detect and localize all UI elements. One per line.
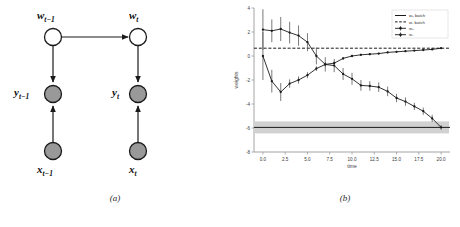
x-tick-label: 17.5 bbox=[414, 157, 423, 162]
data-point bbox=[271, 30, 273, 32]
data-point bbox=[404, 50, 406, 52]
weights-vs-time-chart: 420-2-4-6-80.02.55.07.510.012.515.017.52… bbox=[230, 0, 460, 190]
data-point bbox=[271, 80, 273, 82]
node-x-prev bbox=[45, 143, 62, 160]
data-point bbox=[378, 52, 380, 54]
data-point bbox=[280, 91, 282, 93]
node-label-y-prev: yt−1 bbox=[14, 86, 29, 101]
data-point bbox=[288, 31, 290, 33]
y-tick-label: -6 bbox=[246, 126, 251, 131]
y-axis-label: weights bbox=[233, 71, 239, 88]
data-point bbox=[360, 54, 362, 56]
node-label-y-t: yt bbox=[112, 86, 119, 101]
data-point bbox=[306, 41, 308, 43]
data-point bbox=[386, 90, 388, 92]
node-w-t bbox=[130, 29, 147, 46]
data-point bbox=[280, 28, 282, 30]
data-point bbox=[422, 49, 424, 51]
y-tick-label: 4 bbox=[247, 6, 250, 11]
data-point bbox=[351, 78, 353, 80]
y-tick-label: -4 bbox=[246, 102, 251, 107]
x-tick-label: 2.5 bbox=[282, 157, 289, 162]
x-tick-label: 5.0 bbox=[304, 157, 311, 162]
data-point bbox=[262, 55, 264, 57]
data-point bbox=[431, 48, 433, 50]
data-point bbox=[351, 55, 353, 57]
legend-label: w₀ bbox=[409, 26, 414, 31]
legend-label: w₁ batch bbox=[409, 20, 426, 25]
data-point bbox=[413, 49, 415, 51]
data-point bbox=[369, 85, 371, 87]
data-point bbox=[431, 117, 433, 119]
series-w1 bbox=[262, 32, 442, 101]
node-w-prev bbox=[45, 29, 62, 46]
y-tick-label: -2 bbox=[246, 78, 251, 83]
data-point bbox=[395, 97, 397, 99]
x-tick-label: 0.0 bbox=[260, 157, 267, 162]
x-axis-label: time bbox=[347, 163, 357, 169]
data-point bbox=[440, 126, 442, 128]
x-tick-label: 12.5 bbox=[370, 157, 379, 162]
data-point bbox=[413, 105, 415, 107]
legend-label: w₁ bbox=[409, 32, 414, 37]
node-y-prev bbox=[45, 86, 62, 103]
data-point bbox=[324, 63, 326, 65]
data-point bbox=[297, 34, 299, 36]
data-point bbox=[422, 110, 424, 112]
data-point bbox=[369, 53, 371, 55]
node-label-x-prev: xt−1 bbox=[37, 163, 53, 178]
data-point bbox=[333, 62, 335, 64]
data-point bbox=[404, 100, 406, 102]
x-tick-label: 7.5 bbox=[327, 157, 334, 162]
data-point bbox=[342, 73, 344, 75]
data-point bbox=[395, 51, 397, 53]
data-point bbox=[315, 67, 317, 69]
legend-label: w₀ batch bbox=[409, 13, 426, 18]
y-tick-label: -8 bbox=[246, 150, 251, 155]
x-tick-label: 15.0 bbox=[392, 157, 401, 162]
x-tick-label: 10.0 bbox=[348, 157, 357, 162]
y-tick-label: 0 bbox=[247, 54, 250, 59]
node-label-x-t: xt bbox=[129, 163, 137, 178]
legend-swatch-marker bbox=[399, 27, 402, 30]
data-point bbox=[288, 82, 290, 84]
data-point bbox=[378, 86, 380, 88]
data-point bbox=[297, 79, 299, 81]
node-label-w-t: wt bbox=[129, 9, 138, 24]
data-point bbox=[342, 57, 344, 59]
panel-b-caption: (b) bbox=[230, 193, 460, 203]
node-label-w-prev: wt−1 bbox=[37, 9, 55, 24]
data-point bbox=[440, 47, 442, 49]
y-tick-label: 2 bbox=[247, 30, 250, 35]
data-point bbox=[315, 55, 317, 57]
data-point bbox=[262, 28, 264, 30]
panel-a-caption: (a) bbox=[0, 193, 230, 203]
data-point bbox=[306, 74, 308, 76]
figure-container: wt−1 wt yt−1 yt xt−1 xt 420-2-4-6-80.02.… bbox=[0, 0, 460, 227]
x-tick-label: 20.0 bbox=[437, 157, 446, 162]
data-point bbox=[360, 84, 362, 86]
legend-swatch-marker bbox=[399, 33, 402, 36]
node-x-t bbox=[130, 143, 147, 160]
node-y-t bbox=[130, 86, 147, 103]
data-point bbox=[386, 51, 388, 53]
